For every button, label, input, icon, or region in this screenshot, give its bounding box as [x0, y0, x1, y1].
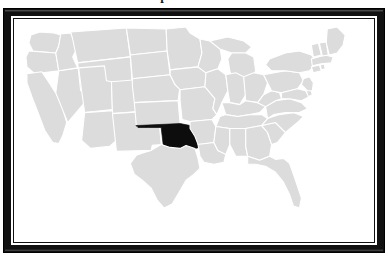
- state-north-dakota[interactable]: [126, 28, 167, 55]
- page-title: Map of Oklahoma: [0, 0, 388, 3]
- state-oregon[interactable]: [26, 51, 59, 74]
- state-rhode-island[interactable]: [320, 64, 325, 70]
- state-washington[interactable]: [29, 32, 61, 53]
- states-group: [26, 27, 345, 208]
- frame-mat: [11, 16, 377, 245]
- state-arizona[interactable]: [82, 111, 117, 149]
- state-new-york[interactable]: [266, 51, 318, 73]
- state-maine[interactable]: [326, 27, 345, 55]
- page-title-bar: Map of Oklahoma: [0, 0, 388, 3]
- state-new-jersey[interactable]: [301, 77, 313, 91]
- state-kansas[interactable]: [134, 101, 180, 126]
- state-minnesota[interactable]: [166, 27, 202, 70]
- picture-frame: [3, 8, 385, 253]
- state-florida[interactable]: [248, 156, 302, 208]
- state-indiana[interactable]: [226, 73, 246, 105]
- frame-top-highlight: [5, 10, 383, 12]
- map-canvas[interactable]: [15, 20, 373, 241]
- frame-bottom-highlight: [5, 249, 383, 251]
- frame-inner-border: [13, 18, 375, 243]
- state-alabama[interactable]: [230, 129, 248, 157]
- united-states-map-svg[interactable]: [15, 20, 373, 241]
- state-texas[interactable]: [130, 144, 200, 208]
- state-south-dakota[interactable]: [130, 51, 170, 79]
